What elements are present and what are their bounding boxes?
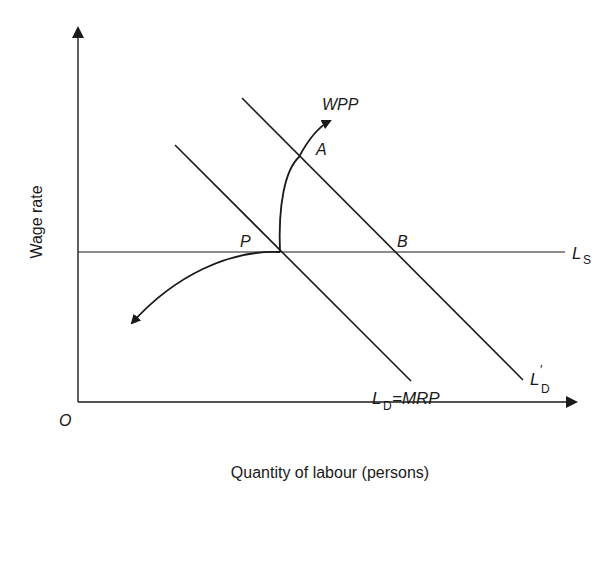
svg-text:=MRP: =MRP bbox=[392, 389, 440, 408]
x-axis-label: Quantity of labour (persons) bbox=[231, 464, 429, 481]
point-b-label: B bbox=[397, 233, 408, 250]
demand-curve-ld-shifted bbox=[242, 98, 523, 380]
x-axis bbox=[78, 396, 578, 408]
x-axis-arrow-icon bbox=[566, 396, 578, 408]
origin-label: O bbox=[59, 412, 71, 429]
wpp-label: WPP bbox=[322, 96, 359, 113]
y-axis-label: Wage rate bbox=[28, 185, 45, 258]
svg-text:D: D bbox=[383, 399, 392, 413]
demand-curve-label: L D =MRP bbox=[372, 389, 440, 413]
point-p-label: P bbox=[240, 233, 251, 250]
svg-text:L: L bbox=[572, 244, 581, 263]
demand-curve-ld bbox=[175, 145, 411, 381]
demand-shifted-curve-label: L ′ D bbox=[530, 362, 550, 396]
y-axis bbox=[72, 26, 84, 402]
labour-market-diagram: O Wage rate Quantity of labour (persons)… bbox=[0, 0, 612, 565]
downward-arrow-curve bbox=[132, 252, 280, 323]
svg-text:′: ′ bbox=[540, 362, 543, 377]
svg-text:S: S bbox=[583, 253, 591, 267]
svg-text:D: D bbox=[541, 382, 550, 396]
supply-curve-label: L S bbox=[572, 244, 591, 267]
point-a-label: A bbox=[315, 141, 327, 158]
y-axis-arrow-icon bbox=[72, 26, 84, 38]
svg-text:L: L bbox=[372, 389, 381, 408]
svg-text:L: L bbox=[530, 370, 539, 389]
